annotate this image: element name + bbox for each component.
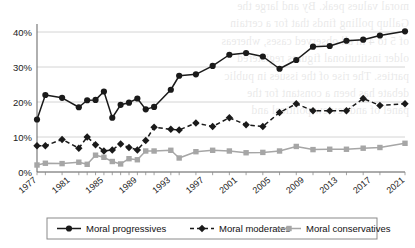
data-point-marker [134,95,140,101]
data-point-marker [142,137,149,144]
data-point-marker [118,102,124,108]
data-point-marker [34,116,40,122]
data-point-marker [93,153,98,158]
x-axis-tick-label: 1985 [83,175,105,196]
x-axis-tick-label: 1977 [17,175,39,196]
data-point-marker [210,148,215,153]
series-line [37,31,405,119]
data-point-marker [126,156,131,161]
data-point-marker [76,104,82,110]
x-axis-tick-label: 1989 [117,175,139,196]
data-point-marker [176,73,182,79]
data-point-marker [193,149,198,154]
x-axis-tick-label: 2017 [351,175,373,196]
data-point-marker [226,52,232,58]
data-point-marker [150,124,157,131]
data-point-marker [326,107,333,114]
data-point-marker [84,162,89,167]
data-point-marker [260,53,266,59]
y-axis-tick-label: 30% [13,62,33,73]
series-line [37,99,405,152]
x-axis-tick-label: 2021 [385,175,407,196]
data-point-marker [84,97,90,103]
data-point-marker [76,160,81,165]
data-point-marker [143,106,149,112]
legend-marker [66,225,72,231]
data-point-marker [226,114,233,121]
data-point-marker [360,146,365,151]
data-point-marker [118,161,123,166]
x-axis-tick-label: 2009 [284,175,306,196]
y-axis-tick-label: 40% [13,27,33,38]
data-point-marker [59,95,65,101]
data-point-marker [401,100,408,107]
data-point-marker [309,107,316,114]
data-point-marker [143,148,148,153]
data-point-marker [360,37,366,43]
data-point-marker [327,147,332,152]
data-point-marker [227,148,232,153]
data-point-marker [192,119,199,126]
chart-screenshot: moral values peak. By and large the Gall… [0,0,415,248]
line-chart: 0%10%20%30%40% 1977198119851989199319972… [0,0,415,248]
data-series [34,28,408,122]
data-point-marker [101,155,106,160]
chart-legend: Moral progressivesMoral moderatesMoral c… [47,218,391,239]
data-point-marker [42,92,48,98]
data-point-marker [175,126,182,133]
legend-label: Moral progressives [86,223,166,234]
legend-marker [286,226,291,231]
data-point-marker [151,148,156,153]
axis-lines [37,24,405,172]
data-point-marker [344,147,349,152]
data-point-marker [277,148,282,153]
data-point-marker [92,97,98,103]
data-point-marker [42,142,49,149]
x-axis-tick-label: 2013 [318,175,340,196]
data-point-marker [327,43,333,49]
data-point-marker [376,102,383,109]
data-point-marker [377,32,383,38]
data-point-marker [33,142,40,149]
data-point-marker [310,147,315,152]
y-axis-tick-label: 10% [13,132,33,143]
series-line [37,143,405,165]
x-axis-tick-label: 2001 [217,175,239,196]
data-point-marker [402,28,408,34]
data-point-marker [110,159,115,164]
x-axis-tick-label: 1997 [184,175,206,196]
data-point-marker [243,150,248,155]
data-point-marker [377,145,382,150]
data-series-group [33,28,408,168]
data-point-marker [193,71,199,77]
chart-svg: 0%10%20%30%40% 1977198119851989199319972… [0,0,415,248]
data-point-marker [294,144,299,149]
data-point-marker [109,115,115,121]
data-point-marker [34,162,39,167]
data-point-marker [151,104,157,110]
data-series [34,141,407,168]
data-point-marker [276,66,282,72]
data-point-marker [242,121,249,128]
data-point-marker [167,126,174,133]
data-point-marker [168,148,173,153]
legend-label: Moral conservatives [306,223,391,234]
data-point-marker [59,161,64,166]
data-point-marker [168,87,174,93]
data-point-marker [126,100,132,106]
data-point-marker [117,140,124,147]
data-point-marker [293,100,300,107]
data-point-marker [260,150,265,155]
x-axis-tick-label: 1993 [150,175,172,196]
data-point-marker [310,44,316,50]
data-point-marker [343,38,349,44]
data-point-marker [101,88,107,94]
x-axis-tick-label: 2005 [251,175,273,196]
y-axis-tick-labels: 0%10%20%30%40% [13,27,33,178]
data-series [33,95,408,155]
x-axis-tick-labels: 1977198119851989199319972001200520092013… [17,175,407,196]
data-point-marker [43,161,48,166]
x-axis-tick-label: 1981 [50,175,72,196]
data-point-marker [209,123,216,130]
data-point-marker [210,63,216,69]
